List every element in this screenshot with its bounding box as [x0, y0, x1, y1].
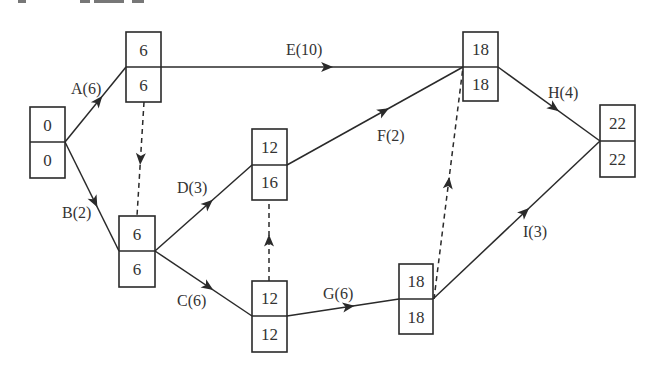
label-A: A(6) [71, 80, 101, 98]
label-I: I(3) [523, 223, 547, 241]
node-n2-top: 6 [139, 41, 148, 60]
label-F: F(2) [377, 127, 405, 145]
network-diagram: A(6) B(2) E(10) D(3) C(6) F(2) G(6) H(4)… [0, 0, 656, 374]
node-n7: 18 18 [399, 264, 433, 334]
clipped-caption [18, 0, 144, 3]
node-n5-top: 12 [261, 289, 278, 308]
node-n4-bottom: 16 [261, 173, 278, 192]
node-n4: 12 16 [252, 129, 287, 200]
node-n5-bottom: 12 [261, 325, 278, 344]
node-n1: 0 0 [30, 107, 65, 178]
dummy-activity-n2-n3 [135, 102, 146, 216]
node-n5: 12 12 [252, 281, 287, 352]
node-n7-top: 18 [408, 272, 425, 291]
label-D: D(3) [177, 179, 207, 197]
node-n1-bottom: 0 [43, 151, 52, 170]
label-B: B(2) [62, 204, 91, 222]
activity-F-arrow [287, 67, 463, 165]
activity-I-arrow [433, 141, 600, 299]
activity-H-arrow [498, 67, 600, 141]
node-n2-bottom: 6 [139, 76, 148, 95]
label-E: E(10) [286, 41, 322, 59]
node-n8-top: 22 [609, 114, 626, 133]
arrowhead-icon [376, 104, 391, 119]
node-n3: 6 6 [119, 216, 155, 287]
node-n3-bottom: 6 [133, 260, 142, 279]
node-n7-bottom: 18 [408, 308, 425, 327]
node-n6: 18 18 [463, 32, 498, 101]
label-G: G(6) [323, 285, 353, 303]
dummy-activity-n7-n6 [434, 67, 463, 299]
label-C: C(6) [177, 292, 206, 310]
label-H: H(4) [548, 84, 578, 102]
activity-E-arrow [161, 62, 463, 72]
dummy-activity-n5-n4 [264, 200, 274, 281]
node-n4-top: 12 [261, 138, 278, 157]
activity-B-arrow [65, 142, 119, 251]
node-n6-top: 18 [472, 40, 489, 59]
node-n3-top: 6 [133, 225, 142, 244]
arrowhead-icon [546, 100, 562, 115]
node-n8-bottom: 22 [609, 150, 626, 169]
node-n8: 22 22 [600, 105, 635, 177]
activity-A-arrow [65, 67, 126, 142]
node-n2: 6 6 [126, 32, 161, 102]
node-n6-bottom: 18 [472, 75, 489, 94]
activity-D-arrow [155, 165, 252, 251]
arrowhead-icon [135, 153, 146, 166]
node-n1-top: 0 [43, 116, 52, 135]
